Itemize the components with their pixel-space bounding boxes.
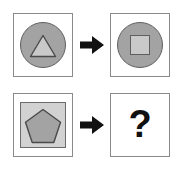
- analogy-puzzle-diagram: ?: [0, 0, 182, 172]
- pentagon-shape: [24, 108, 62, 144]
- right-arrow-icon: [80, 35, 104, 55]
- square-shape: [130, 35, 150, 55]
- shape-stage: [14, 14, 72, 76]
- right-arrow-icon: [80, 115, 104, 135]
- analogy-row-2: ?: [0, 92, 182, 158]
- shape-stage: [111, 14, 169, 76]
- panel-square-with-pentagon[interactable]: [13, 93, 73, 157]
- panel-unknown-answer[interactable]: ?: [110, 93, 170, 157]
- triangle-shape: [29, 34, 57, 58]
- question-mark: ?: [128, 105, 151, 143]
- shape-stage: [14, 94, 72, 156]
- panel-circle-with-triangle[interactable]: [13, 13, 73, 77]
- panel-circle-with-square[interactable]: [110, 13, 170, 77]
- analogy-row-1: [0, 12, 182, 78]
- shape-stage: ?: [111, 94, 169, 156]
